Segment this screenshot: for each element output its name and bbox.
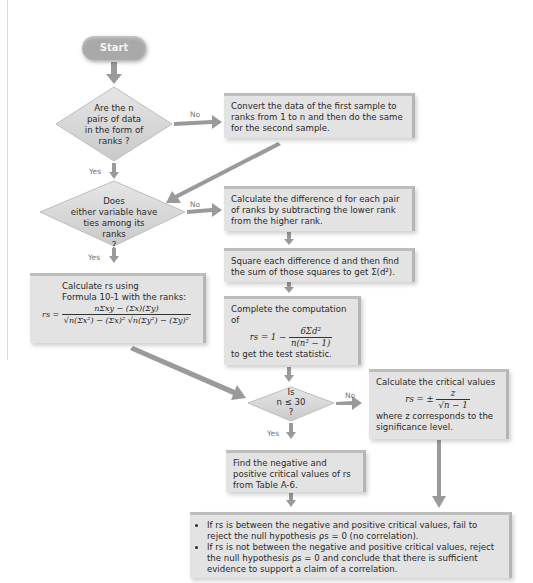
formula-rs: rs = 1 − 6Σd² n(n² − 1) xyxy=(231,326,351,349)
formula-numerator: nΣxy − (Σx)(Σy) xyxy=(62,303,191,315)
box-text: Formula 10-1 with the ranks: xyxy=(34,292,199,303)
decision-n-small: Is n ≤ 30 ? xyxy=(262,387,320,417)
formula-lhs: rs = 1 − xyxy=(250,332,287,342)
decision-ranks-form: Are the n pairs of data in the form of r… xyxy=(66,103,162,147)
decision-line: Does xyxy=(50,196,178,207)
decision-line: ranks xyxy=(50,229,178,240)
formula-denominator: √n − 1 xyxy=(436,400,469,411)
formula-numerator: 6Σd² xyxy=(289,326,332,338)
formula-fraction: 6Σd² n(n² − 1) xyxy=(289,326,332,349)
box-convert-ranks: Convert the data of the first sample to … xyxy=(224,93,415,138)
box-text: to get the test statistic. xyxy=(231,349,351,360)
decision-line: either variable have xyxy=(50,207,178,218)
no-label: No xyxy=(190,200,200,209)
decision-line: Are the n xyxy=(66,103,162,114)
decision-ties: Does either variable have ties among its… xyxy=(50,196,178,251)
box-conclusion: If rs is between the negative and positi… xyxy=(190,512,512,578)
yes-label: Yes xyxy=(267,429,279,438)
box-text: Complete the computation of xyxy=(231,304,351,326)
decision-line: pairs of data xyxy=(66,114,162,125)
formula-numerator: z xyxy=(436,388,469,400)
conclusion-item: If rs is between the negative and positi… xyxy=(207,520,502,542)
decision-line: ties among its xyxy=(50,218,178,229)
formula-denominator: √n(Σx²) − (Σx)² √n(Σy²) − (Σy)² xyxy=(62,315,191,326)
formula-critical: rs = ± z √n − 1 xyxy=(376,388,499,411)
box-square-sum: Square each difference d and then find t… xyxy=(224,248,415,282)
decision-line: ? xyxy=(50,240,178,251)
no-label: No xyxy=(190,110,200,119)
decision-line: ? xyxy=(262,407,320,417)
box-table-lookup: Find the negative and positive critical … xyxy=(226,450,366,492)
decision-line: ranks ? xyxy=(66,136,162,147)
box-text: where z corresponds to the significance … xyxy=(376,411,499,433)
box-pearson-formula: Calculate rs using Formula 10-1 with the… xyxy=(30,273,206,343)
yes-label: Yes xyxy=(89,167,101,176)
yes-label: Yes xyxy=(88,253,100,262)
start-terminal: Start xyxy=(82,36,146,60)
conclusion-list: If rs is between the negative and positi… xyxy=(197,520,502,575)
formula-fraction: z √n − 1 xyxy=(436,388,469,411)
formula-denominator: n(n² − 1) xyxy=(289,338,332,349)
decision-line: Is xyxy=(262,387,320,397)
formula-lhs: rs = xyxy=(42,310,59,319)
formula-lhs: rs = ± xyxy=(405,394,433,404)
box-complete-computation: Complete the computation of rs = 1 − 6Σd… xyxy=(224,296,361,365)
box-calc-difference: Calculate the difference d for each pair… xyxy=(224,186,415,231)
no-label: No xyxy=(345,391,355,400)
conclusion-item: If rs is not between the negative and po… xyxy=(207,542,502,575)
box-text: Calculate the critical values xyxy=(376,377,499,388)
decision-line: n ≤ 30 xyxy=(262,397,320,407)
box-critical-values-large-n: Calculate the critical values rs = ± z √… xyxy=(369,369,509,439)
decision-line: in the form of xyxy=(66,125,162,136)
formula-fraction: nΣxy − (Σx)(Σy) √n(Σx²) − (Σx)² √n(Σy²) … xyxy=(62,303,191,326)
box-text: Calculate rs using xyxy=(34,281,199,292)
formula-pearson: rs = nΣxy − (Σx)(Σy) √n(Σx²) − (Σx)² √n(… xyxy=(34,303,199,326)
